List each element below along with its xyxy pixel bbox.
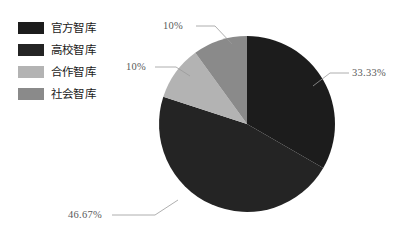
slice-label-social: 10% [163, 20, 183, 31]
slice-label-cooperative: 10% [126, 61, 146, 72]
pie-chart-figure: 官方智库 高校智库 合作智库 社会智库 10% 10% 33.33% 46.67… [0, 0, 400, 249]
slice-label-official: 33.33% [352, 67, 386, 78]
slice-label-university: 46.67% [68, 209, 102, 220]
pie-svg [0, 0, 400, 249]
pie-slices [159, 36, 335, 212]
leader-line-bottom [112, 200, 178, 215]
